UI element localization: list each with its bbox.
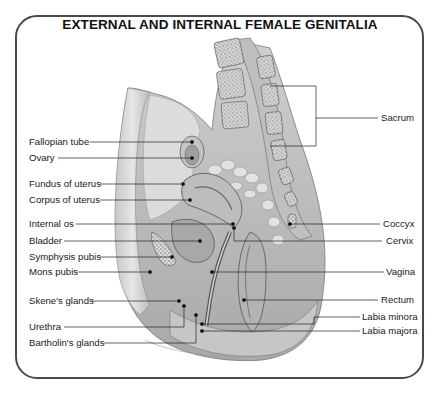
label-sacrum: Sacrum — [381, 113, 414, 123]
label-labia-majora: Labia majora — [362, 326, 417, 336]
label-fallopian-tube: Fallopian tube — [29, 137, 89, 147]
label-bladder: Bladder — [29, 236, 62, 246]
label-urethra: Urethra — [29, 322, 61, 332]
label-cervix: Cervix — [386, 236, 413, 246]
label-vagina: Vagina — [386, 267, 415, 277]
label-bartholins-glands: Bartholin's glands — [29, 338, 104, 348]
label-internal-os: Internal os — [29, 219, 74, 229]
label-mons-pubis: Mons pubis — [29, 267, 78, 277]
label-symphysis-pubis: Symphysis pubis — [29, 252, 101, 262]
label-corpus-of-uterus: Corpus of uterus — [29, 195, 100, 205]
label-skenes-glands: Skene's glands — [29, 296, 94, 306]
label-ovary: Ovary — [29, 153, 55, 163]
label-labia-minora: Labia minora — [362, 312, 417, 322]
label-rectum: Rectum — [381, 295, 414, 305]
label-fundus-of-uterus: Fundus of uterus — [29, 179, 101, 189]
label-coccyx: Coccyx — [383, 219, 414, 229]
